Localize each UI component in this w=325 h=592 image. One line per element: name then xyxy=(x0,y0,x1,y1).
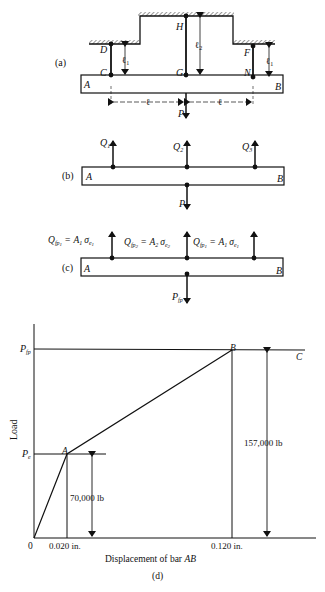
force-q1: Q1 xyxy=(100,137,110,149)
force-qfp1-left: Qfp1=A1σe1 xyxy=(48,235,94,247)
point-f: F xyxy=(243,47,251,58)
force-qfp2: Qfp2=A2σe2 xyxy=(124,237,171,249)
point-h: H xyxy=(175,21,184,32)
point-a: A xyxy=(83,79,91,90)
panel-c: (c) A B Qfp1=A1σe1 Qfp2=A2σe2 Qfp1=A1σe1… xyxy=(48,232,283,303)
point-a: A xyxy=(61,446,68,456)
load-pfp: Pfp xyxy=(171,291,183,303)
panel-c-label: (c) xyxy=(62,262,73,274)
x-axis-label: Displacement of bar AB xyxy=(105,554,196,564)
panel-a: (a) D C H G F N A B ℓ1 ℓ2 ℓ1 ℓ ℓ P xyxy=(55,12,283,119)
figure: (a) D C H G F N A B ℓ1 ℓ2 ℓ1 ℓ ℓ P (b) A… xyxy=(0,0,325,592)
pfp-line xyxy=(34,349,305,350)
x-tick-0120: 0.120 in. xyxy=(211,541,243,551)
point-g: G xyxy=(176,67,183,78)
point-b: B xyxy=(230,343,236,353)
y-axis-label: Load xyxy=(8,419,19,440)
length-l2: ℓ2 xyxy=(195,40,202,51)
point-d: D xyxy=(99,44,108,55)
point-n: N xyxy=(243,67,252,78)
tick-pfp: Pfp xyxy=(19,343,31,355)
length-l-left: ℓ xyxy=(146,97,150,107)
x-tick-0020: 0.020 in. xyxy=(49,541,81,551)
annotation-70000: 70,000 lb xyxy=(70,493,105,503)
point-a: A xyxy=(83,263,91,274)
length-l1: ℓ1 xyxy=(122,55,129,66)
length-l-right: ℓ xyxy=(218,97,222,107)
panel-b: (b) A B Q1 Q2 Q3 P xyxy=(62,137,284,209)
panel-a-label: (a) xyxy=(55,57,66,69)
point-b: B xyxy=(276,265,282,276)
panel-d-chart: Pfp Pe Load B C A 0 0.020 in. 0.120 in. … xyxy=(8,324,316,582)
annotation-157000: 157,000 lb xyxy=(244,438,283,448)
length-l1-right: ℓ1 xyxy=(266,56,273,67)
load-p: P xyxy=(177,108,184,119)
load-p: P xyxy=(178,198,185,209)
point-b: B xyxy=(275,81,281,92)
force-qfp1-right: Qfp1=A1σe1 xyxy=(193,237,239,249)
point-a: A xyxy=(85,171,93,182)
tick-pe: Pe xyxy=(21,448,31,460)
point-c: C xyxy=(296,352,303,362)
point-b: B xyxy=(277,173,283,184)
origin-label: 0 xyxy=(28,541,33,551)
force-q2: Q2 xyxy=(173,141,183,153)
panel-d-label: (d) xyxy=(152,571,163,582)
load-curve xyxy=(34,350,232,538)
point-c: C xyxy=(100,67,107,78)
panel-b-label: (b) xyxy=(62,170,74,182)
force-q3: Q3 xyxy=(242,141,252,153)
